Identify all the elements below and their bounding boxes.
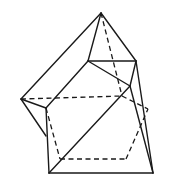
hidden-edge-D2-E	[126, 109, 148, 159]
hidden-edge-L-H	[21, 96, 122, 99]
polyhedron-diagram	[0, 0, 171, 187]
visible-edge-BL-P	[49, 86, 130, 173]
visible-edge-UR-P	[130, 61, 136, 86]
visible-edge-A-UR	[101, 13, 136, 61]
polyhedron-svg	[0, 0, 171, 187]
visible-edge-Q-UL	[46, 61, 88, 108]
visible-edge-UL-P	[88, 61, 130, 86]
hidden-edge-A-H	[101, 13, 122, 96]
visible-edges	[21, 13, 153, 173]
visible-edge-L-R	[21, 99, 46, 136]
